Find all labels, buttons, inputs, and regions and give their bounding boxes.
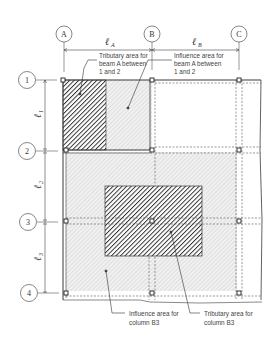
span-l3-symbol: ℓ [32,257,43,261]
svg-text:beam A between: beam A between [99,60,147,67]
column-a2 [64,148,68,152]
grid-bubble-2: 2 [25,147,29,156]
column-a4 [64,291,68,295]
span-l2-symbol: ℓ [32,185,43,189]
span-l3-sub: 3 [38,253,44,257]
span-l2-sub: 2 [38,181,44,184]
column-b1 [150,78,154,82]
svg-text:column B3: column B3 [129,319,160,326]
svg-text:Influence area for: Influence area for [129,310,180,317]
span-l1-sub: 1 [38,110,44,113]
span-lb-symbol: ℓ [192,36,196,47]
column-c2 [237,148,241,152]
column-b4 [150,291,154,295]
svg-text:column B3: column B3 [204,319,235,326]
span-la-sub: A [110,42,115,48]
column-b2 [150,148,154,152]
svg-text:beam A between: beam A between [174,60,222,67]
svg-text:1 and 2: 1 and 2 [174,68,196,75]
tributary-area-beam-a [63,80,106,150]
annotation-influence-column: Influence area for column B3 [129,310,180,326]
svg-text:1 and 2: 1 and 2 [99,68,121,75]
svg-text:Tributary area for: Tributary area for [99,52,149,60]
span-la-symbol: ℓ [105,36,109,47]
column-b3 [150,219,154,223]
column-c1 [237,78,241,82]
svg-text:Influence area for: Influence area for [174,52,225,59]
structural-floor-plan: A B C ℓ A ℓ B 1 2 3 4 [0,0,279,341]
svg-text:Tributary area for: Tributary area for [204,310,254,318]
span-l1-symbol: ℓ [32,114,43,118]
grid-bubble-a: A [61,30,67,39]
annotation-tributary-column: Tributary area for column B3 [204,310,254,326]
grid-bubble-1: 1 [25,76,29,85]
column-a1 [61,78,65,82]
span-lb-sub: B [198,42,202,48]
grid-bubble-4: 4 [27,289,31,298]
grid-bubble-c: C [236,30,241,39]
column-c4 [237,291,241,295]
column-c3 [237,219,241,223]
column-a3 [64,219,68,223]
grid-bubble-b: B [149,30,154,39]
grid-bubble-3: 3 [26,218,30,227]
annotation-tributary-beam: Tributary area for beam A between 1 and … [99,52,149,75]
annotation-influence-beam: Influence area for beam A between 1 and … [174,52,225,75]
